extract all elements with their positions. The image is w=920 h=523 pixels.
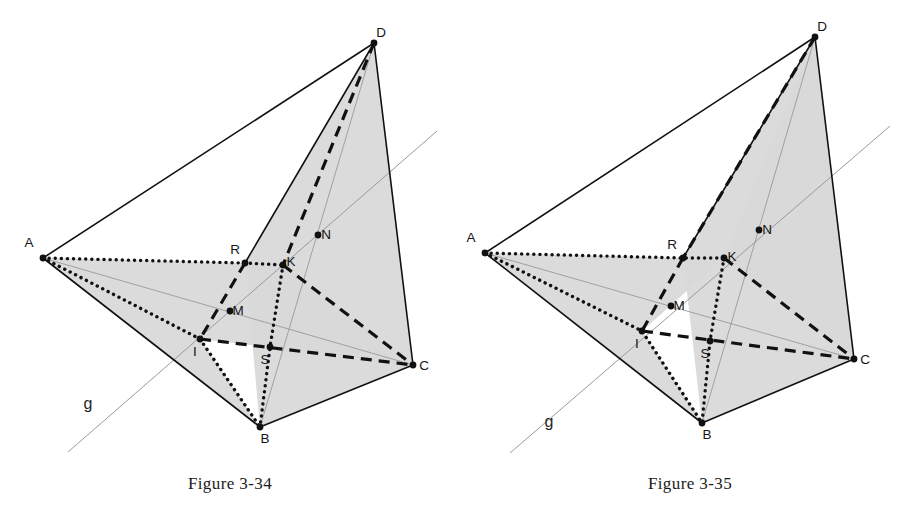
- vertex-label-A: A: [466, 230, 475, 245]
- vertex-label-I: I: [635, 336, 639, 351]
- figure-caption-3-35: Figure 3-35: [460, 474, 920, 494]
- figure-page: ABCDRKNMISg Figure 3-34 ABCDRKNMISg Figu…: [0, 0, 920, 523]
- guide-line-label-g: g: [545, 413, 554, 430]
- diagram-3-35: ABCDRKNMISg: [0, 0, 920, 523]
- vertex-label-S: S: [700, 346, 709, 361]
- vertex-dot-B: [699, 420, 706, 427]
- vertex-dot-D: [812, 34, 819, 41]
- vertex-dot-S: [707, 338, 714, 345]
- vertex-label-R: R: [667, 237, 677, 252]
- vertex-label-K: K: [727, 249, 736, 264]
- vertex-label-D: D: [817, 19, 827, 34]
- vertex-label-N: N: [762, 222, 772, 237]
- vertex-label-B: B: [702, 427, 711, 442]
- vertex-dot-C: [851, 356, 858, 363]
- vertex-dot-A: [482, 250, 489, 257]
- vertex-dot-K: [721, 255, 728, 262]
- vertex-label-M: M: [673, 298, 684, 313]
- vertex-dot-R: [680, 255, 687, 262]
- figure-panel-3-35: ABCDRKNMISg Figure 3-35: [460, 0, 920, 523]
- vertex-label-C: C: [860, 352, 870, 367]
- vertex-dot-I: [639, 328, 646, 335]
